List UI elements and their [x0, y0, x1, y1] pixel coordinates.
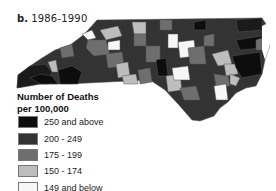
legend-title-line2: per 100,000	[17, 103, 99, 115]
legend-label: 150 - 174	[44, 166, 82, 176]
legend-swatch	[18, 165, 38, 177]
legend-item: 150 - 174	[18, 165, 82, 177]
legend-item: 200 - 249	[18, 133, 82, 145]
legend-swatch	[18, 116, 38, 128]
legend-title-line1: Number of Deaths	[17, 91, 99, 103]
legend-title: Number of Deaths per 100,000	[17, 91, 99, 115]
legend-swatch	[18, 133, 38, 145]
legend-label: 175 - 199	[44, 150, 82, 160]
legend-label: 250 and above	[44, 117, 104, 127]
legend-label: 200 - 249	[44, 134, 82, 144]
legend-item: 175 - 199	[18, 149, 82, 161]
legend-swatch	[18, 149, 38, 161]
legend-swatch	[18, 182, 38, 191]
legend-item: 149 and below	[18, 182, 103, 191]
legend-item: 250 and above	[18, 116, 104, 128]
legend-label: 149 and below	[44, 183, 103, 191]
